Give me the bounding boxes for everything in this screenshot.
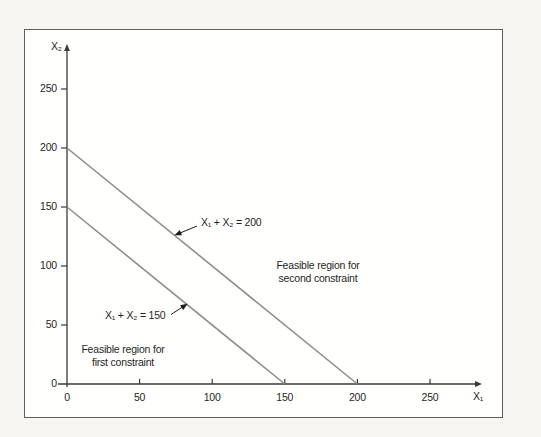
feasible-region-first-label: Feasible region for first constraint xyxy=(63,343,183,369)
annotation-arrow-150 xyxy=(171,306,183,314)
y-tick-label: 0 xyxy=(25,377,57,389)
plot-frame: X₂ X₁ X₁ + X₂ = 200 X₁ + X₂ = 150 Feasib… xyxy=(24,29,503,418)
y-tick-label: 250 xyxy=(25,82,57,94)
x-tick-label: 150 xyxy=(276,391,293,403)
x-tick-label: 200 xyxy=(349,391,366,403)
y-tick-label: 150 xyxy=(25,200,57,212)
annotation-arrow-200 xyxy=(179,226,197,233)
feasible-region-first-line2: first constraint xyxy=(63,356,183,369)
x-tick-label: 50 xyxy=(134,391,145,403)
x-tick-label: 0 xyxy=(64,391,70,403)
feasible-region-second-line2: second constraint xyxy=(255,272,381,285)
y-tick-label: 200 xyxy=(25,141,57,153)
x-tick-label: 100 xyxy=(204,391,221,403)
constraint-200-label: X₁ + X₂ = 200 xyxy=(201,216,261,229)
annotation-arrow-200-head xyxy=(174,230,182,235)
x-tick-label: 250 xyxy=(422,391,439,403)
x-axis-label: X₁ xyxy=(473,390,483,403)
constraint-150-label: X₁ + X₂ = 150 xyxy=(105,309,165,322)
feasible-region-first-line1: Feasible region for xyxy=(63,343,183,356)
feasible-region-second-line1: Feasible region for xyxy=(255,259,381,272)
y-axis-arrowhead xyxy=(64,44,70,51)
feasible-region-second-label: Feasible region for second constraint xyxy=(255,259,381,285)
x-axis-arrowhead xyxy=(475,381,482,387)
y-tick-label: 100 xyxy=(25,259,57,271)
y-axis-label: X₂ xyxy=(51,40,62,53)
annotation-arrow-150-head xyxy=(180,304,187,310)
y-tick-label: 50 xyxy=(25,318,57,330)
